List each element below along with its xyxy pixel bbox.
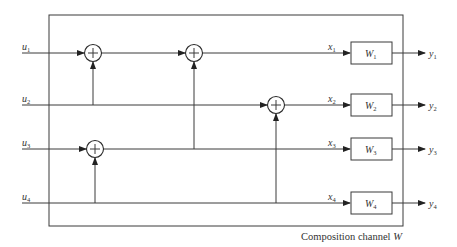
output-label-y3: y3 xyxy=(428,144,437,156)
adder-1 xyxy=(85,45,102,62)
composition-channel-diagram: W1 W2 W3 W4 u1 u2 u3 u4 x1 x2 x3 x4 y1 y… xyxy=(0,0,457,247)
diagram-caption: Composition channel W xyxy=(301,231,403,242)
output-label-y1: y1 xyxy=(428,48,437,60)
intermediate-label-x2: x2 xyxy=(327,93,336,105)
input-label-u3: u3 xyxy=(22,137,30,149)
output-label-y2: y2 xyxy=(428,100,437,112)
input-label-u2: u2 xyxy=(22,93,30,105)
input-label-u4: u4 xyxy=(22,191,31,203)
input-label-u1: u1 xyxy=(22,41,30,53)
intermediate-label-x4: x4 xyxy=(327,191,336,203)
adder-4 xyxy=(87,141,104,158)
intermediate-label-x3: x3 xyxy=(327,137,336,149)
composition-channel-box xyxy=(49,15,403,226)
intermediate-label-x1: x1 xyxy=(327,41,336,53)
adder-2 xyxy=(186,45,203,62)
adder-3 xyxy=(268,97,285,114)
output-label-y4: y4 xyxy=(428,198,437,210)
